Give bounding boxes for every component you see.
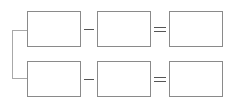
- row-link-bracket: [12, 30, 27, 79]
- row2-equals-sign: [154, 77, 166, 82]
- row2-result-box[interactable]: [169, 61, 223, 97]
- row1-result-box[interactable]: [169, 11, 223, 47]
- row2-operand2-box[interactable]: [97, 61, 151, 97]
- row1-operand2-box[interactable]: [97, 11, 151, 47]
- row2-operand1-box[interactable]: [27, 61, 81, 97]
- row1-minus-sign: [84, 29, 94, 30]
- row2-minus-sign: [84, 79, 94, 80]
- row1-equals-sign: [154, 27, 166, 32]
- row1-operand1-box[interactable]: [27, 11, 81, 47]
